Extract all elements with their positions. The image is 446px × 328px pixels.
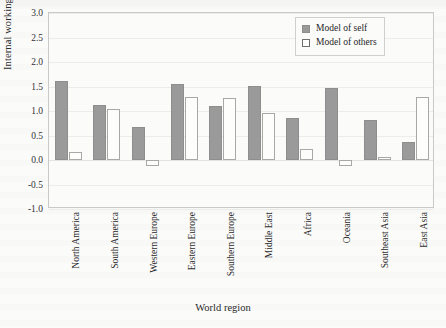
y-tick-label: 0.5 bbox=[31, 131, 43, 141]
filled-gray-swatch bbox=[302, 25, 310, 33]
bar-model-of-others bbox=[185, 97, 198, 160]
y-tick-label: 2.0 bbox=[31, 57, 43, 67]
x-tick-label: Southeast Asia bbox=[380, 212, 390, 268]
bar-model-of-others bbox=[146, 160, 159, 166]
bar-model-of-others bbox=[107, 109, 120, 160]
x-tick-label: East Asia bbox=[419, 212, 429, 248]
bar-model-of-self bbox=[171, 84, 184, 160]
bar-model-of-self bbox=[364, 120, 377, 160]
bar-model-of-others bbox=[300, 149, 313, 160]
bar-model-of-others bbox=[223, 98, 236, 160]
bar-chart-figure: Internal working models World region 3.0… bbox=[0, 0, 446, 328]
y-tick-label: -1.0 bbox=[28, 204, 43, 214]
x-tick-label: Eastern Europe bbox=[187, 212, 197, 270]
bar-model-of-others bbox=[69, 152, 82, 160]
x-tick-label: Middle East bbox=[264, 212, 274, 258]
bar-model-of-others bbox=[339, 160, 352, 166]
bar-model-of-self bbox=[93, 105, 106, 160]
bar-model-of-self bbox=[55, 81, 68, 160]
legend-label: Model of self bbox=[316, 22, 367, 36]
bar-model-of-self bbox=[325, 88, 338, 160]
legend-label: Model of others bbox=[316, 36, 377, 50]
bar-model-of-self bbox=[402, 142, 415, 160]
y-tick-label: 1.0 bbox=[31, 106, 43, 116]
bar-model-of-others bbox=[416, 97, 429, 160]
bar-model-of-others bbox=[262, 113, 275, 160]
x-tick-label: Africa bbox=[303, 212, 313, 236]
bar-model-of-self bbox=[286, 118, 299, 160]
y-tick-label: 2.5 bbox=[31, 33, 43, 43]
y-tick-label: -0.5 bbox=[28, 180, 43, 190]
outline-white-swatch bbox=[302, 39, 310, 47]
bar-model-of-self bbox=[209, 106, 222, 160]
bar-model-of-self bbox=[132, 127, 145, 160]
y-axis-title: Internal working models bbox=[2, 0, 13, 70]
x-tick-label: Western Europe bbox=[149, 212, 159, 273]
legend-item: Model of self bbox=[302, 22, 377, 36]
x-tick-label: North America bbox=[71, 212, 81, 269]
gridline bbox=[49, 209, 433, 210]
legend: Model of selfModel of others bbox=[295, 17, 385, 56]
x-tick-label: Southern Europe bbox=[226, 212, 236, 276]
x-tick-label: South America bbox=[110, 212, 120, 269]
legend-item: Model of others bbox=[302, 36, 377, 50]
bar-model-of-others bbox=[378, 157, 391, 160]
x-tick-label: Oceania bbox=[342, 212, 352, 243]
y-tick-label: 1.5 bbox=[31, 82, 43, 92]
bar-model-of-self bbox=[248, 86, 261, 160]
x-axis-title: World region bbox=[0, 302, 446, 313]
y-tick-label: 0.0 bbox=[31, 155, 43, 165]
y-tick-label: 3.0 bbox=[31, 8, 43, 18]
